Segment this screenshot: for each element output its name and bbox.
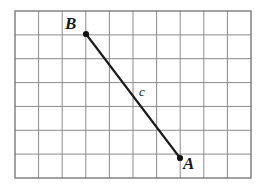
vertex-label-a: A [183,155,194,172]
segment-label-c: c [139,85,145,98]
geometry-figure: B A c [0,0,266,193]
vertex-label-b: B [65,15,76,32]
point-b-dot [83,31,89,37]
figure-canvas [0,0,266,193]
